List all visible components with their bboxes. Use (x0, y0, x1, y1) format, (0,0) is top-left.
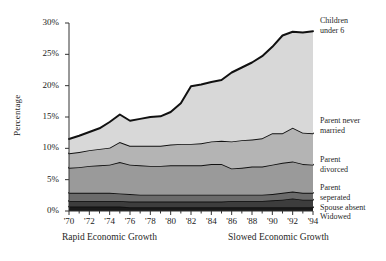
x-axis-tick-label: '92 (282, 216, 304, 226)
y-axis-tick-label: 10% (25, 142, 59, 152)
x-axis-tick-label: '76 (119, 216, 141, 226)
legend-parent-seperated: Parent seperated (320, 183, 350, 202)
stacked-area-chart-figure: Percentage Rapid Economic Growth Slowed … (0, 0, 386, 261)
annotation-slowed-economic-growth: Slowed Economic Growth (228, 232, 329, 242)
area-band-parent-divorced (69, 161, 313, 194)
legend-widowed: Widowed (320, 212, 351, 222)
legend-parent-seperated-line2: seperated (320, 193, 350, 203)
y-axis-tick-label: 20% (25, 80, 59, 90)
legend-children-under-6-line1: Children (320, 16, 348, 26)
x-axis-tick-label: '82 (180, 216, 202, 226)
legend-parent-never-married-line1: Parent never (320, 116, 360, 126)
legend-parent-seperated-line1: Parent (320, 183, 350, 193)
x-axis-tick-label: '88 (241, 216, 263, 226)
y-axis-tick-label: 5% (25, 174, 59, 184)
x-axis-tick-label: '78 (139, 216, 161, 226)
legend-parent-never-married: Parent never married (320, 116, 360, 135)
y-axis-tick-label: 15% (25, 111, 59, 121)
legend-parent-divorced-line1: Parent (320, 155, 348, 165)
x-axis-tick-label: '84 (200, 216, 222, 226)
x-axis-tick-label: '70 (58, 216, 80, 226)
x-axis-tick-label: '90 (261, 216, 283, 226)
legend-parent-divorced-line2: divorced (320, 165, 348, 175)
x-axis-tick-label: '72 (78, 216, 100, 226)
y-axis-tick-label: 25% (25, 48, 59, 58)
x-axis-tick-label: '74 (99, 216, 121, 226)
y-axis-title: Percentage (12, 95, 22, 136)
legend-parent-never-married-line2: married (320, 126, 360, 136)
y-axis-tick-label: 0% (25, 205, 59, 215)
x-axis-tick-label: '86 (221, 216, 243, 226)
y-axis-tick-label: 30% (25, 17, 59, 27)
legend-parent-divorced: Parent divorced (320, 155, 348, 174)
x-axis-tick-label: '94 (302, 216, 324, 226)
annotation-rapid-economic-growth: Rapid Economic Growth (62, 232, 157, 242)
legend-children-under-6: Children under 6 (320, 16, 348, 35)
x-axis-tick-label: '80 (160, 216, 182, 226)
legend-children-under-6-line2: under 6 (320, 26, 348, 36)
